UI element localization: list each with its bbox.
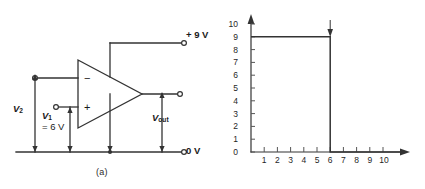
ytick-label-2: 2 — [224, 121, 238, 131]
terminal-output — [178, 92, 183, 97]
xtick-label-7: 7 — [337, 155, 349, 165]
panel-b-chart: 10 9 8 7 6 5 4 3 2 1 0 1 2 3 4 5 6 7 8 9… — [212, 0, 425, 189]
panel-a-caption: (a) — [96, 167, 108, 177]
vout-label-subscript: out — [158, 116, 168, 123]
y-tick-marks — [251, 24, 255, 152]
terminal-v1-input — [54, 105, 59, 110]
circuit-schematic-svg: − + — [0, 0, 212, 189]
vout-label: Vout — [152, 113, 169, 124]
xtick-label-5: 5 — [311, 155, 323, 165]
panel-a-circuit-diagram: − + + 9 V 0 V V2 V1 = 6 V Vout (a) — [0, 0, 212, 189]
ytick-label-5: 5 — [224, 83, 238, 93]
v1-label: V1 = 6 V — [42, 111, 64, 132]
xtick-label-4: 4 — [298, 155, 310, 165]
ytick-label-10: 10 — [224, 19, 238, 29]
vout-arrowhead-up — [159, 92, 164, 98]
vout-arrowhead-down — [159, 146, 164, 152]
opamp-noninverting-symbol: + — [84, 101, 90, 113]
ground-voltage-label: 0 V — [186, 146, 200, 157]
supply-voltage-label: + 9 V — [186, 30, 208, 41]
ytick-label-8: 8 — [224, 45, 238, 55]
xtick-label-3: 3 — [285, 155, 297, 165]
ytick-label-7: 7 — [224, 57, 238, 67]
annotation-pointer — [327, 20, 333, 37]
v2-label: V2 — [13, 104, 23, 115]
v2-label-subscript: 2 — [19, 107, 23, 114]
xtick-label-6: 6 — [324, 155, 336, 165]
y-axis-arrowhead — [248, 14, 255, 24]
v1-arrowhead-up — [67, 107, 72, 113]
xtick-label-1: 1 — [258, 155, 270, 165]
ytick-label-9: 9 — [224, 32, 238, 42]
ytick-label-3: 3 — [224, 109, 238, 119]
v2-arrowhead-down — [32, 146, 37, 152]
v1-value-label: = 6 V — [42, 121, 64, 132]
ytick-label-6: 6 — [224, 70, 238, 80]
xtick-label-2: 2 — [271, 155, 283, 165]
xtick-label-8: 8 — [351, 155, 363, 165]
v1-arrowhead-down — [67, 146, 72, 152]
figure-container: − + + 9 V 0 V V2 V1 = 6 V Vout (a) — [0, 0, 425, 189]
xtick-label-9: 9 — [364, 155, 376, 165]
ytick-label-4: 4 — [224, 96, 238, 106]
terminal-supply-plus9v — [182, 41, 187, 46]
transfer-curve — [251, 37, 402, 152]
xtick-label-10: 10 — [376, 155, 392, 165]
opamp-inverting-symbol: − — [84, 72, 90, 84]
ytick-label-1: 1 — [224, 134, 238, 144]
ytick-label-0: 0 — [224, 147, 238, 157]
